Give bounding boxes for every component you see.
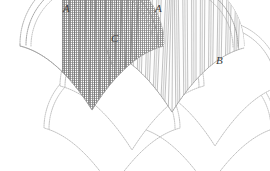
figure-canvas: A A C B: [0, 0, 270, 171]
label-a-left: A: [63, 3, 70, 14]
label-b: B: [216, 55, 223, 66]
label-c: C: [111, 33, 118, 44]
fan-scale-diagram: [0, 0, 270, 171]
label-a-right: A: [155, 3, 162, 14]
